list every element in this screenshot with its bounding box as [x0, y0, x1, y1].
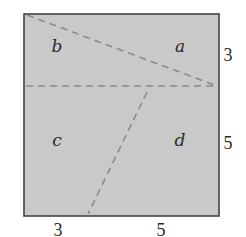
region-label-a: a [175, 36, 185, 56]
dissection-diagram: b a c d 3 5 3 5 [0, 0, 246, 237]
right-dimension-bottom: 5 [224, 133, 233, 153]
right-dimension-top: 3 [224, 45, 233, 65]
region-label-c: c [52, 130, 62, 150]
bottom-dimension-right: 5 [157, 220, 166, 237]
region-label-b: b [52, 36, 63, 56]
bottom-dimension-left: 3 [54, 220, 63, 237]
region-label-d: d [175, 130, 186, 150]
